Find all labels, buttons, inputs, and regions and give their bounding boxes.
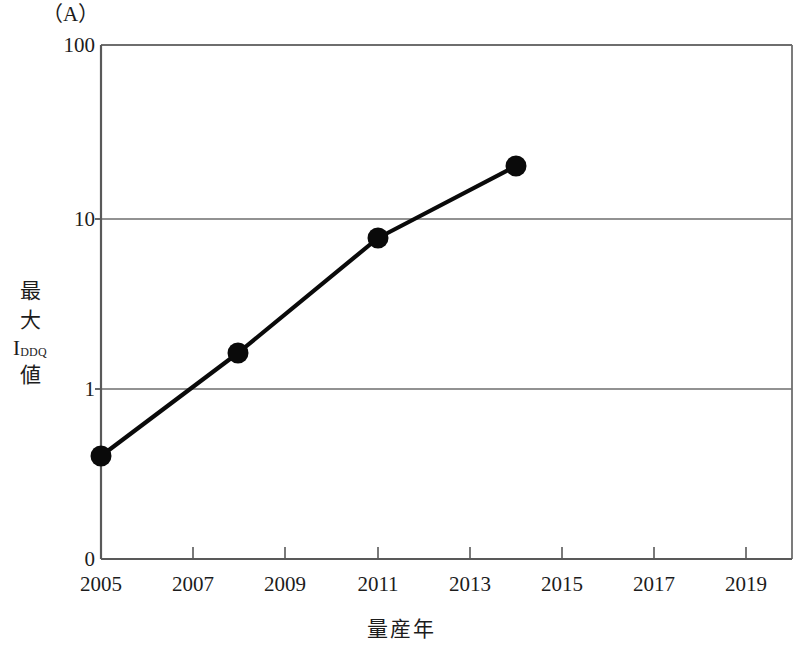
x-tick-label-2019: 2019 — [700, 572, 792, 597]
data-point-2008[interactable] — [228, 343, 249, 364]
x-axis-title: 量産年 — [0, 616, 803, 642]
data-point-2011[interactable] — [368, 228, 389, 249]
x-tick-label-2007: 2007 — [147, 572, 239, 597]
plot-area — [0, 0, 803, 659]
data-point-2014[interactable] — [506, 156, 527, 177]
data-markers — [91, 156, 527, 467]
data-line — [101, 166, 516, 456]
x-tick-marks — [193, 547, 746, 559]
x-tick-label-2017: 2017 — [608, 572, 700, 597]
axis-frame — [101, 45, 792, 559]
x-tick-label-2015: 2015 — [516, 572, 608, 597]
x-tick-label-2009: 2009 — [239, 572, 331, 597]
x-tick-label-2005: 2005 — [55, 572, 147, 597]
gridlines — [101, 219, 792, 389]
chart-container: （A） 100 10 1 0 最 大 IDDQ 値 — [0, 0, 803, 659]
x-tick-label-2013: 2013 — [424, 572, 516, 597]
x-tick-label-2011: 2011 — [332, 572, 424, 597]
data-point-2005[interactable] — [91, 446, 112, 467]
